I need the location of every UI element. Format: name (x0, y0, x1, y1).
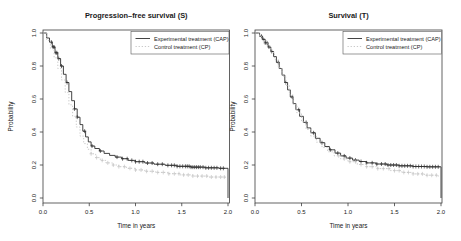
y-axis-label: Probability (229, 101, 237, 132)
y-axis: 0.00.20.40.60.81.0Probability (229, 28, 256, 202)
series-experimental-line (43, 33, 228, 198)
x-tick-label: 0.5 (297, 209, 306, 215)
y-tick-label: 0.0 (243, 193, 249, 202)
y-tick-label: 1.0 (31, 28, 37, 37)
panel-progression-free-survival: Progression–free survival (S)0.00.51.01.… (7, 11, 233, 230)
y-tick-label: 0.2 (31, 160, 37, 169)
legend-label: Experimental treatment (CAP) (154, 36, 229, 42)
chart-title: Survival (T) (328, 11, 369, 20)
survival-curves-figure: Progression–free survival (S)0.00.51.01.… (0, 0, 461, 241)
legend-label: Experimental treatment (CAP) (366, 36, 441, 42)
x-tick-label: 0.0 (251, 209, 260, 215)
y-tick-label: 0.6 (31, 94, 37, 103)
censor-marks-experimental (50, 40, 225, 170)
y-tick-label: 0.8 (31, 61, 37, 70)
y-tick-label: 0.2 (243, 160, 249, 169)
y-tick-label: 0.4 (31, 127, 37, 136)
series-control-line (43, 33, 225, 178)
censor-marks-experimental (260, 34, 440, 169)
y-axis: 0.00.20.40.60.81.0Probability (7, 28, 44, 202)
y-tick-label: 0.8 (243, 61, 249, 70)
y-tick-label: 0.4 (243, 127, 249, 136)
plot-border (43, 30, 230, 203)
legend: Experimental treatment (CAP)Control trea… (131, 32, 229, 55)
x-tick-label: 1.0 (344, 209, 353, 215)
legend-label: Control treatment (CP) (366, 44, 422, 50)
y-tick-label: 1.0 (243, 28, 249, 37)
x-axis-label: Time in years (117, 222, 155, 230)
x-tick-label: 0.5 (85, 209, 94, 215)
y-tick-label: 0.6 (243, 94, 249, 103)
x-axis: 0.00.51.01.52.0Time in years (39, 203, 233, 230)
km-plots-canvas: Progression–free survival (S)0.00.51.01.… (0, 0, 461, 241)
x-axis-label: Time in years (329, 222, 367, 230)
series-control-line (255, 33, 438, 177)
y-axis-label: Probability (7, 101, 15, 132)
censor-marks-control (337, 154, 438, 177)
x-tick-label: 1.5 (178, 209, 187, 215)
x-tick-label: 0.0 (39, 209, 48, 215)
x-tick-label: 1.5 (390, 209, 399, 215)
chart-title: Progression–free survival (S) (85, 11, 188, 20)
x-axis: 0.00.51.01.52.0Time in years (251, 203, 446, 230)
legend-label: Control treatment (CP) (154, 44, 210, 50)
panel-overall-survival: Survival (T)0.00.51.01.52.0Time in years… (229, 11, 446, 230)
x-tick-label: 1.0 (131, 209, 140, 215)
x-tick-label: 2.0 (437, 209, 446, 215)
plot-border (255, 30, 442, 203)
legend: Experimental treatment (CAP)Control trea… (343, 32, 442, 55)
x-tick-label: 2.0 (224, 209, 233, 215)
y-tick-label: 0.0 (31, 193, 37, 202)
